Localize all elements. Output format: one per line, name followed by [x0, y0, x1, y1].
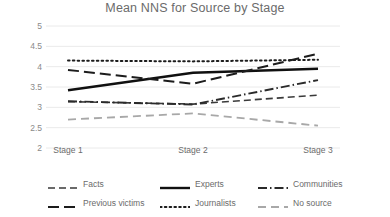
legend-label: Communities — [293, 179, 343, 189]
legend-swatch-icon — [48, 179, 78, 189]
series-line-journalists — [68, 60, 318, 62]
legend-label: Previous victims — [83, 198, 144, 208]
legend-row: FactsExpertsCommunities — [0, 174, 390, 193]
series-line-no-source — [68, 113, 318, 125]
y-axis-tick-label: 4.5 — [30, 41, 42, 51]
x-axis-tick-label: Stage 1 — [53, 145, 82, 155]
legend-item-facts[interactable]: Facts — [48, 174, 104, 193]
legend-label: Experts — [195, 179, 224, 189]
chart-title: Mean NNS for Source by Stage — [0, 1, 390, 15]
x-axis: Stage 1Stage 2Stage 3 — [46, 142, 344, 162]
series-line-previous-victims — [68, 54, 318, 84]
legend-row: Previous victimsJournalistsNo source — [0, 193, 390, 212]
legend-swatch-icon — [160, 179, 190, 189]
legend-item-communities[interactable]: Communities — [258, 174, 343, 193]
series-line-communities — [68, 80, 318, 104]
y-axis-tick-label: 4 — [37, 62, 42, 72]
chart-container: Mean NNS for Source by Stage 54.543.532.… — [0, 0, 390, 217]
legend-label: Facts — [83, 179, 104, 189]
legend-label: No source — [293, 198, 332, 208]
y-axis-tick-label: 3.5 — [30, 82, 42, 92]
x-axis-tick-label: Stage 3 — [303, 145, 332, 155]
legend-swatch-icon — [258, 179, 288, 189]
legend-item-journalists[interactable]: Journalists — [160, 193, 236, 212]
y-axis-tick-label: 2.5 — [30, 123, 42, 133]
legend-item-experts[interactable]: Experts — [160, 174, 224, 193]
legend-swatch-icon — [160, 198, 190, 208]
y-axis: 54.543.532.52 — [0, 18, 46, 158]
y-axis-tick-label: 5 — [37, 21, 42, 31]
chart-legend: FactsExpertsCommunitiesPrevious victimsJ… — [0, 174, 390, 216]
y-axis-tick-label: 2 — [37, 143, 42, 153]
legend-item-no-source[interactable]: No source — [258, 193, 332, 212]
plot-area — [46, 18, 344, 158]
legend-swatch-icon — [258, 198, 288, 208]
plot-svg — [46, 18, 344, 158]
legend-label: Journalists — [195, 198, 236, 208]
y-axis-tick-label: 3 — [37, 102, 42, 112]
plot-wrapper: 54.543.532.52 — [0, 18, 390, 160]
x-axis-tick-label: Stage 2 — [178, 145, 207, 155]
legend-swatch-icon — [48, 198, 78, 208]
legend-item-previous-victims[interactable]: Previous victims — [48, 193, 144, 212]
